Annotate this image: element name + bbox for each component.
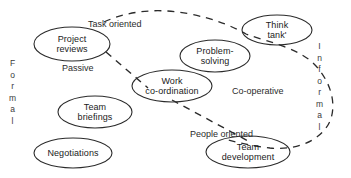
informal-letter: o [317,76,322,88]
node-work-coordination[interactable]: Work co-ordination [132,70,212,102]
diagram-canvas: Project reviews Think tank' Problem- sol… [0,0,351,178]
node-team-development[interactable]: Team development [206,136,290,168]
node-problem-solving[interactable]: Problem- solving [180,40,250,72]
node-label-line1: Team [60,102,130,112]
axis-label-formal-vertical: F o r m a l [9,58,16,127]
node-team-briefings[interactable]: Team briefings [58,96,132,128]
node-project-reviews[interactable]: Project reviews [34,27,110,61]
informal-letter: r [318,87,321,99]
node-think-tank[interactable]: Think tank' [242,15,312,45]
formal-letter: l [12,116,14,128]
informal-letter: m [316,99,323,111]
node-label-line2: development [208,152,288,162]
node-label-line2: briefings [60,112,130,122]
node-label-line2: solving [182,56,248,66]
formal-letter: m [9,93,16,105]
axis-label-co-operative: Co-operative [232,86,284,96]
axis-label-people-oriented: People oriented [190,129,253,139]
axis-label-task-oriented: Task oriented [88,19,142,29]
informal-letter: f [318,64,320,76]
node-label-line2: reviews [36,44,108,54]
informal-letter: l [319,122,321,134]
formal-letter: o [10,70,15,82]
node-label-line1: Work [134,76,210,86]
node-label-line1: Project [36,34,108,44]
node-label-line1: Think [244,20,310,30]
node-negotiations[interactable]: Negotiations [34,138,112,168]
informal-letter: I [318,41,320,53]
formal-letter: a [10,104,15,116]
axis-label-passive: Passive [62,63,94,73]
formal-letter: r [11,81,14,93]
axis-label-informal-vertical: I n f o r m a l [316,41,323,133]
node-label-line1: Team [208,142,288,152]
informal-letter: n [317,53,322,65]
node-label-line1: Problem- [182,46,248,56]
node-label-line1: Negotiations [36,148,110,158]
informal-letter: a [317,110,322,122]
formal-letter: F [10,58,15,70]
node-label-line2: co-ordination [134,86,210,96]
node-label-line2: tank' [244,30,310,40]
